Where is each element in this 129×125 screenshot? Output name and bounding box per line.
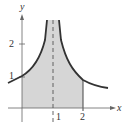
- x-axis-label: x: [117, 103, 121, 113]
- y-tick-label-1: 1: [9, 71, 14, 81]
- x-tick-label-2: 2: [80, 112, 85, 122]
- y-axis-arrow-icon: [20, 14, 24, 20]
- graph: [0, 0, 129, 125]
- y-axis-label: y: [20, 2, 24, 12]
- x-axis-arrow-icon: [110, 106, 116, 110]
- shaded-area: [22, 20, 83, 108]
- y-tick-label-2: 2: [9, 39, 14, 49]
- x-tick-label-1: 1: [56, 112, 61, 122]
